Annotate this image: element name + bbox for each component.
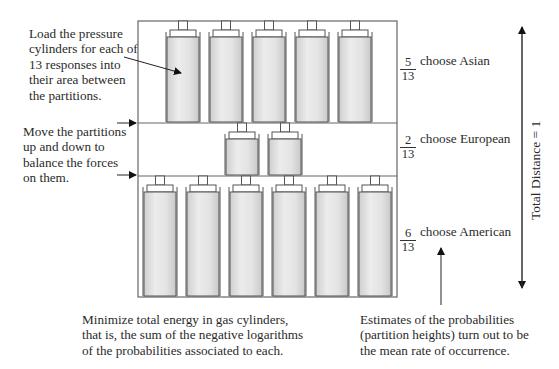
gas-cylinder xyxy=(225,123,259,175)
european-fraction: 2 13 xyxy=(400,134,416,161)
gas-cylinder xyxy=(252,21,286,122)
gas-cylinder xyxy=(338,21,372,122)
gas-cylinder xyxy=(166,21,200,122)
total-distance-label: Total Distance = 1 xyxy=(528,121,544,220)
european-cylinders xyxy=(225,123,302,175)
move-partitions-note: Move the partitions up and down to balan… xyxy=(23,124,126,186)
american-label: choose American xyxy=(420,224,511,240)
gas-cylinder xyxy=(272,176,306,296)
asian-label: choose Asian xyxy=(420,53,490,69)
gas-cylinder xyxy=(229,176,263,296)
european-label: choose European xyxy=(420,131,510,147)
gas-cylinder xyxy=(209,21,243,122)
minimize-energy-note: Minimize total energy in gas cylinders, … xyxy=(82,312,303,358)
gas-cylinder xyxy=(143,176,177,296)
american-cylinders xyxy=(143,176,392,296)
gas-cylinder xyxy=(268,123,302,175)
gas-cylinder xyxy=(315,176,349,296)
load-cylinders-note: Load the pressure cylinders for each of … xyxy=(29,26,138,103)
asian-fraction: 5 13 xyxy=(400,56,416,83)
estimates-note: Estimates of the probabilities (partitio… xyxy=(360,312,529,358)
gas-cylinder xyxy=(186,176,220,296)
asian-cylinders xyxy=(166,21,372,122)
gas-cylinder xyxy=(295,21,329,122)
american-fraction: 6 13 xyxy=(400,227,416,254)
gas-cylinder xyxy=(358,176,392,296)
